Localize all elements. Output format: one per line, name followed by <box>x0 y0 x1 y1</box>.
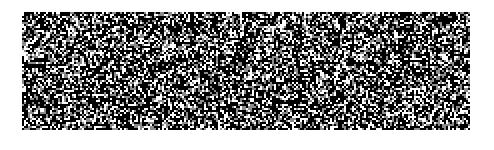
noise-pattern-panel <box>22 12 470 130</box>
random-dot-noise-image <box>22 12 470 130</box>
